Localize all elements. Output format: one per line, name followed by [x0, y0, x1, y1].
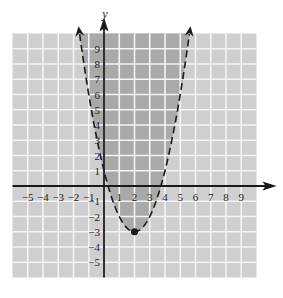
x-tick-label: 9 — [239, 191, 245, 203]
x-tick-label: −4 — [37, 191, 49, 203]
y-tick-label: 4 — [95, 119, 101, 131]
y-tick-label: 2 — [95, 150, 101, 162]
x-tick-label: 4 — [162, 191, 168, 203]
y-tick-label: 5 — [95, 104, 101, 116]
y-tick-label: 9 — [95, 43, 101, 55]
y-tick-label: 1 — [95, 165, 101, 177]
y-tick-label: −3 — [88, 226, 100, 238]
x-tick-label: −2 — [68, 191, 80, 203]
coordinate-graph: −5−4−3−2−1123456789987654321−1−2−3−4−5 x… — [0, 0, 282, 298]
x-tick-label: 7 — [208, 191, 214, 203]
x-tick-label: 8 — [223, 191, 229, 203]
y-tick-label: 3 — [95, 134, 101, 146]
x-tick-label: 2 — [132, 191, 138, 203]
x-tick-label: −3 — [52, 191, 64, 203]
y-tick-label: −1 — [88, 195, 100, 207]
y-tick-label: −4 — [88, 241, 100, 253]
y-tick-label: 6 — [95, 89, 101, 101]
x-tick-label: −5 — [22, 191, 34, 203]
x-tick-label: 1 — [117, 191, 123, 203]
y-tick-label: 7 — [95, 73, 101, 85]
y-tick-label: −2 — [88, 211, 100, 223]
x-axis-label: x — [282, 179, 283, 193]
x-tick-label: 6 — [193, 191, 199, 203]
x-tick-label: 3 — [147, 191, 153, 203]
y-tick-label: 8 — [95, 58, 101, 70]
x-tick-label: 5 — [178, 191, 184, 203]
y-tick-label: −5 — [88, 256, 100, 268]
y-axis-label: y — [101, 7, 108, 21]
vertex-point — [131, 228, 138, 235]
